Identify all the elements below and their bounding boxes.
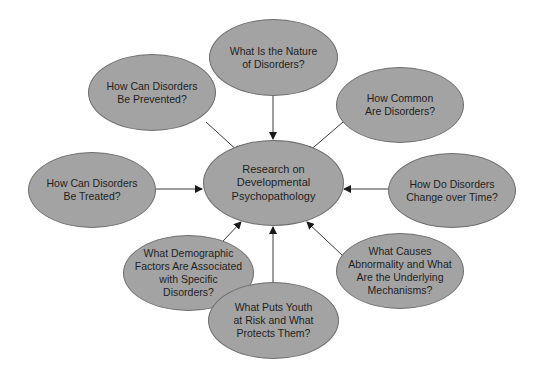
node-prevented: How Can Disorders Be Prevented? <box>88 54 216 131</box>
node-label: What Causes Abnormality and What Are the… <box>342 245 457 297</box>
node-label: What Is the Nature of Disorders? <box>224 45 324 71</box>
node-risk: What Puts Youth at Risk and What Protect… <box>208 282 339 359</box>
node-nature: What Is the Nature of Disorders? <box>209 19 338 96</box>
node-common: How Common Are Disorders? <box>336 67 464 143</box>
node-label: How Can Disorders Be Prevented? <box>100 80 203 106</box>
node-label: What Puts Youth at Risk and What Protect… <box>228 301 320 340</box>
node-label: How Common Are Disorders? <box>359 92 441 118</box>
node-label: How Do Disorders Change over Time? <box>400 178 504 204</box>
node-center: Research on Developmental Psychopatholog… <box>203 140 344 226</box>
node-change: How Do Disorders Change over Time? <box>388 153 516 228</box>
node-treated: How Can Disorders Be Treated? <box>28 152 156 228</box>
node-label: How Can Disorders Be Treated? <box>40 177 143 203</box>
node-causes: What Causes Abnormality and What Are the… <box>336 233 464 309</box>
center-label: Research on Developmental Psychopatholog… <box>226 163 322 204</box>
